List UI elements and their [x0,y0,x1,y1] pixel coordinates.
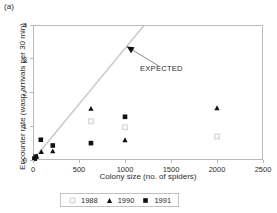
legend-label: 1990 [118,196,135,205]
x-tick-mark [33,160,34,163]
filled-square-icon [141,196,150,205]
open-square-gray-icon [68,196,77,205]
legend-label: 1991 [154,196,171,205]
expected-annotation-label: EXPECTED [140,64,183,73]
y-axis-title: Encounter rate (wasp arrivals per 30 min… [18,22,27,172]
y-tick-mark [30,92,33,93]
expected-line [33,25,144,160]
series-1990 [32,105,219,160]
data-point [89,141,94,146]
arrow-head [127,47,135,54]
data-point [123,125,128,130]
legend-entry-1988[interactable]: 1988 [68,196,98,205]
data-points-group [32,105,220,161]
series-1988 [89,119,220,139]
y-tick-mark [30,126,33,127]
y-tick-mark [30,58,33,59]
legend: 198819901991 [60,193,179,207]
data-point [122,137,127,142]
x-axis-title: Colony size (no. of spiders) [33,172,263,181]
legend-entry-1991[interactable]: 1991 [141,196,171,205]
panel-label: (a) [4,2,14,11]
data-point [88,106,93,111]
data-point [89,119,94,124]
figure-panel-a: (a) 01234 05001000150020002500 Colony si… [0,0,277,213]
data-point [123,115,128,120]
data-point [214,105,219,110]
data-point [33,154,38,159]
legend-entry-1990[interactable]: 1990 [105,196,135,205]
y-tick-mark [30,25,33,26]
x-tick-mark [263,160,264,163]
expected-reference-line [33,25,144,160]
legend-label: 1988 [81,196,98,205]
data-point [50,143,55,148]
x-tick-mark [171,160,172,163]
data-point [215,134,220,139]
scatter-plot-canvas [33,25,263,160]
filled-triangle-icon [105,196,114,205]
x-tick-mark [79,160,80,163]
data-point [50,148,55,153]
plot-area: 01234 05001000150020002500 [33,25,263,160]
series-1991 [32,115,127,161]
data-point [39,137,44,142]
x-tick-mark [125,160,126,163]
x-tick-mark [217,160,218,163]
